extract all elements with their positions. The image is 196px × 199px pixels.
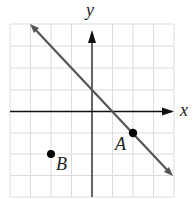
y-axis-arrow-icon — [88, 30, 96, 43]
point-b-label: B — [56, 154, 67, 174]
point-a-label: A — [114, 134, 127, 154]
y-axis-label: y — [84, 0, 94, 20]
coordinate-plane: A B y x — [0, 0, 196, 199]
point-a — [129, 129, 137, 137]
y-axis — [88, 30, 96, 197]
point-b — [47, 150, 55, 158]
x-axis-arrow-icon — [162, 108, 174, 116]
x-axis-label: x — [179, 100, 188, 120]
